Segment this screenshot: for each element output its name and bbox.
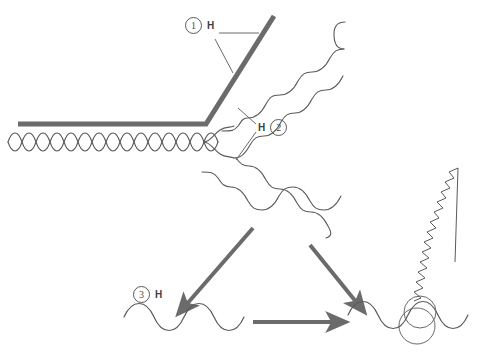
arrow-down-left <box>186 228 253 305</box>
diagonal-square-wave-lower <box>202 172 341 210</box>
label-3-number: 3 <box>133 286 150 303</box>
label-3-tag: H <box>155 289 162 300</box>
thick-bent-beam <box>18 16 274 124</box>
lower-left-sine-wave <box>124 304 244 331</box>
label-2-number: 2 <box>270 119 287 136</box>
label-3: 3 H <box>133 286 162 303</box>
diagonal-square-wave-lower-2 <box>236 158 331 238</box>
label-2-tag: H <box>258 122 265 133</box>
label-1-number: 1 <box>185 17 202 34</box>
arrow-down-right <box>310 245 357 303</box>
label-2: H 2 <box>258 119 287 136</box>
label-1: 1 H <box>185 17 214 34</box>
diagonal-square-wave-upper-tail <box>334 22 345 49</box>
lower-right-sine-wave <box>348 302 468 329</box>
label-1-tag: H <box>207 20 214 31</box>
diagram-canvas: 1 H H 2 3 H <box>0 0 486 353</box>
emission-zigzag <box>414 168 458 301</box>
diagonal-square-wave-upper-2 <box>234 76 343 158</box>
highlight-circle-lower <box>399 308 435 344</box>
wave-diagram-svg <box>0 0 486 353</box>
